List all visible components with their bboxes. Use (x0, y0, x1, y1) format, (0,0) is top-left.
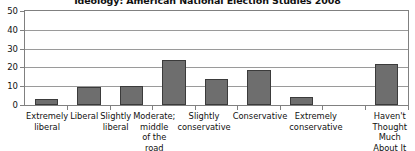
x-axis-label-line: conservative (177, 122, 230, 133)
bar-series (25, 11, 408, 105)
y-tick-label: 50 (7, 7, 18, 16)
bar-slot (110, 11, 153, 105)
x-axis-label-line: Moderate; (133, 111, 175, 122)
x-axis-label-line: Much About It (373, 132, 407, 151)
x-axis-label-line: Conservative (233, 111, 288, 122)
x-axis-label: Extremelyliberal (25, 111, 69, 151)
x-axis-label (344, 111, 372, 151)
x-tick-mark (408, 106, 409, 110)
bar-slot (195, 11, 238, 105)
x-axis-label-line: Haven't (373, 111, 407, 122)
x-axis-label-line: Extremely (26, 111, 68, 122)
x-axis-label-line: Thought (373, 122, 407, 133)
bar-slot (323, 11, 366, 105)
bar (375, 64, 398, 105)
bar-slot (238, 11, 281, 105)
x-axis-label-line: middle (133, 122, 175, 133)
x-axis-label: Slightlyliberal (99, 111, 132, 151)
bar (290, 97, 313, 105)
x-axis-label: Conservative (232, 111, 289, 151)
y-tick-label: 30 (7, 44, 18, 53)
y-tick-label: 40 (7, 26, 18, 35)
bar (120, 86, 143, 105)
x-axis-label-line: Slightly (177, 111, 230, 122)
x-axis-label: Haven'tThoughtMuch About It (372, 111, 408, 151)
x-axis-label-line: Extremely (289, 111, 342, 122)
chart-title: Ideology: American National Election Stu… (0, 0, 415, 6)
x-axis-label: Extremelyconservative (288, 111, 343, 151)
bar (162, 60, 185, 105)
bar-slot (153, 11, 196, 105)
x-axis-label: Liberal (69, 111, 99, 151)
y-tick-label: 10 (7, 82, 18, 91)
x-axis-labels: ExtremelyliberalLiberalSlightlyliberalMo… (25, 111, 408, 151)
x-axis-label: Moderate;middleof the road (132, 111, 176, 151)
bar (35, 99, 58, 105)
y-axis: 01020304050 (0, 0, 24, 110)
y-tick-label: 0 (13, 101, 18, 110)
x-axis-label-line: of the road (133, 132, 175, 151)
x-axis-label-line: Slightly (100, 111, 131, 122)
bar (205, 79, 228, 105)
bar-slot (25, 11, 68, 105)
x-axis-label-line: liberal (100, 122, 131, 133)
x-axis-label-line: conservative (289, 122, 342, 133)
x-axis-label-line: liberal (26, 122, 68, 133)
ideology-bar-chart: Ideology: American National Election Stu… (0, 0, 415, 151)
bar-slot (366, 11, 409, 105)
bar-slot (280, 11, 323, 105)
x-axis-label: Slightlyconservative (176, 111, 231, 151)
bar (247, 70, 270, 105)
x-axis-label-line: Liberal (70, 111, 98, 122)
bar (77, 87, 100, 105)
bar-slot (68, 11, 111, 105)
y-tick-label: 20 (7, 63, 18, 72)
